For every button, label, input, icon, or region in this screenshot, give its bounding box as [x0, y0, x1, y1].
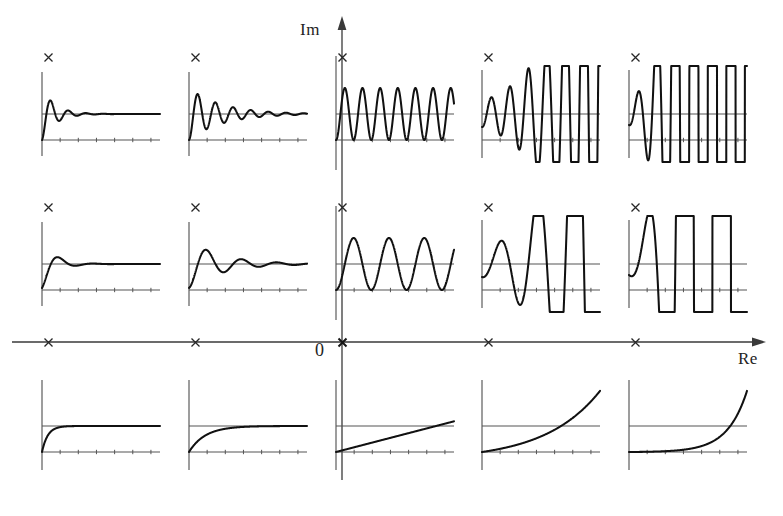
imaginary-axis-arrowhead [338, 16, 347, 30]
exponential-response-curve [42, 426, 160, 452]
response-plot-r2c2 [179, 216, 314, 312]
response-plot-r3c5 [619, 378, 754, 474]
response-panel-r3c2 [179, 378, 314, 474]
pole-marker-r1c1 [43, 52, 54, 63]
pole-marker-r2c3 [337, 202, 348, 213]
response-panel-r1c5 [619, 66, 754, 162]
response-plot-r2c3 [326, 216, 461, 312]
response-panel-r1c1 [32, 66, 167, 162]
exponential-response-curve [629, 391, 747, 452]
pole-marker-r1c4 [483, 52, 494, 63]
pole-marker-r3c5 [630, 337, 641, 348]
oscillatory-response-curve [189, 94, 307, 140]
oscillatory-response-curve [42, 257, 160, 288]
response-plot-r3c1 [32, 378, 167, 474]
response-panel-r1c4 [472, 66, 607, 162]
pole-marker-r2c1 [43, 202, 54, 213]
real-axis-label: Re [738, 349, 758, 369]
oscillatory-response-curve [189, 250, 307, 288]
pole-marker-r2c4 [483, 202, 494, 213]
exponential-response-curve [189, 426, 307, 452]
response-plot-r2c4 [472, 216, 607, 312]
response-plot-r1c1 [32, 66, 167, 162]
response-panel-r2c2 [179, 216, 314, 312]
response-panel-r2c5 [619, 216, 754, 312]
response-panel-r2c1 [32, 216, 167, 312]
response-plot-r2c5 [619, 216, 754, 312]
pole-marker-origin [337, 337, 348, 348]
response-plot-r3c4 [472, 378, 607, 474]
response-plot-r2c1 [32, 216, 167, 312]
response-panel-r3c5 [619, 378, 754, 474]
response-plot-r1c4 [472, 66, 607, 162]
exponential-response-curve [482, 391, 600, 452]
response-plot-r3c3 [326, 378, 461, 474]
response-plot-r1c5 [619, 66, 754, 162]
response-panel-r3c3 [326, 378, 461, 474]
response-panel-r2c4 [472, 216, 607, 312]
pole-marker-r2c5 [630, 202, 641, 213]
response-panel-r2c3 [326, 216, 461, 312]
pole-marker-r1c2 [190, 52, 201, 63]
imaginary-axis-label: Im [300, 20, 320, 40]
pole-marker-r3c4 [483, 337, 494, 348]
origin-label: 0 [315, 340, 325, 361]
response-panel-r3c1 [32, 378, 167, 474]
pole-marker-r3c1 [43, 337, 54, 348]
pole-marker-r2c2 [190, 202, 201, 213]
pole-marker-r1c5 [630, 52, 641, 63]
pole-marker-r3c2 [190, 337, 201, 348]
real-axis-arrowhead [752, 338, 766, 347]
oscillatory-response-curve [42, 100, 160, 140]
response-panel-r1c3 [326, 66, 461, 162]
response-panel-r3c4 [472, 378, 607, 474]
response-plot-r3c2 [179, 378, 314, 474]
pole-response-figure: Im Re 0 [0, 0, 783, 516]
pole-marker-r1c3 [337, 52, 348, 63]
response-plot-r1c3 [326, 66, 461, 162]
response-plot-r1c2 [179, 66, 314, 162]
response-panel-r1c2 [179, 66, 314, 162]
